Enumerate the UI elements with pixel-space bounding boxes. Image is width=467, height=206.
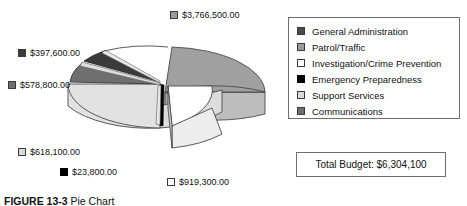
figure-caption: FIGURE 13-3 Pie Chart: [4, 196, 304, 206]
legend-swatch-investigation: [297, 59, 305, 67]
legend-label-general-administration: General Administration: [312, 26, 408, 37]
legend-item-investigation: Investigation/Crime Prevention: [297, 55, 453, 71]
chart-legend: General Administration Patrol/Traffic In…: [288, 17, 460, 119]
figure-caption-text: Pie Chart: [71, 196, 115, 206]
legend-item-patrol-traffic: Patrol/Traffic: [297, 39, 453, 55]
legend-label-patrol-traffic: Patrol/Traffic: [312, 42, 365, 53]
callout-label-emergency: $397,600.00: [30, 48, 80, 58]
callout-investigation: $919,300.00: [167, 177, 229, 187]
pie-chart: [60, 22, 275, 182]
callout-support-services: $618,100.00: [18, 147, 80, 157]
callout-communications: $578,800.00: [8, 80, 70, 90]
legend-item-general-administration: General Administration: [297, 23, 453, 39]
legend-swatch-emergency-preparedness: [297, 75, 305, 83]
legend-label-emergency-preparedness: Emergency Preparedness: [312, 74, 422, 85]
legend-item-emergency-preparedness: Emergency Preparedness: [297, 71, 453, 87]
callout-swatch-investigation: [167, 178, 175, 186]
legend-label-support-services: Support Services: [312, 90, 384, 101]
legend-item-support-services: Support Services: [297, 87, 453, 103]
total-budget-label: Total Budget: $6,304,100: [315, 159, 426, 170]
callout-label-patrol-traffic: $3,766,500.00: [182, 10, 240, 20]
callout-label-support-services: $618,100.00: [30, 147, 80, 157]
legend-label-investigation: Investigation/Crime Prevention: [312, 58, 441, 69]
legend-swatch-patrol-traffic: [297, 43, 305, 51]
callout-swatch-support-services: [18, 148, 26, 156]
callout-patrol-traffic: $3,766,500.00: [170, 10, 240, 20]
callout-label-investigation: $919,300.00: [179, 177, 229, 187]
legend-swatch-communications: [297, 107, 305, 115]
callout-swatch-emergency-small: [60, 168, 68, 176]
slice-support-services: [68, 84, 160, 128]
legend-swatch-general-administration: [297, 27, 305, 35]
callout-emergency-small: $23,800.00: [60, 167, 117, 177]
legend-label-communications: Communications: [312, 106, 383, 117]
callout-swatch-emergency: [18, 49, 26, 57]
total-budget-box: Total Budget: $6,304,100: [296, 152, 446, 177]
figure-container: $3,766,500.00 $397,600.00 $578,800.00 $6…: [0, 0, 467, 206]
legend-swatch-support-services: [297, 91, 305, 99]
pie-chart-svg: [60, 22, 275, 182]
callout-emergency: $397,600.00: [18, 48, 80, 58]
callout-swatch-communications: [8, 81, 16, 89]
callout-label-communications: $578,800.00: [20, 80, 70, 90]
callout-label-emergency-small: $23,800.00: [72, 167, 117, 177]
legend-item-communications: Communications: [297, 103, 453, 119]
figure-caption-number: FIGURE 13-3: [4, 196, 68, 206]
callout-swatch-patrol-traffic: [170, 11, 178, 19]
